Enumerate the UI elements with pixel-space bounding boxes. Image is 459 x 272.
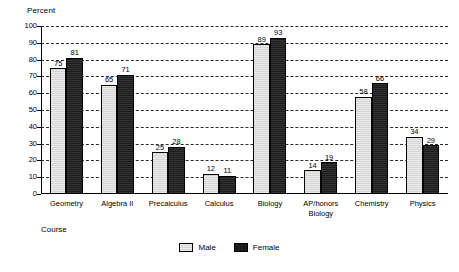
plot-area: 75816571252812118993141958663429 [41,26,448,194]
bar-female: 28 [168,147,185,194]
bar-value-label: 66 [376,75,384,83]
bar-value-label: 58 [359,88,367,96]
bar-male: 89 [253,44,270,194]
bar-value-label: 11 [223,167,231,175]
bar-value-label: 89 [258,36,266,44]
bar-female: 11 [219,176,236,194]
bar-value-label: 65 [105,76,113,84]
bar-chart: Percent 75816571252812118993141958663429… [0,0,459,272]
y-axis-tick-mark [37,26,41,27]
legend: Male Female [0,243,459,252]
bar-value-label: 75 [54,60,62,68]
bar-value-label: 93 [274,29,282,37]
bar-female: 71 [117,75,134,194]
x-axis-category-label: Chemistry [346,199,397,209]
x-axis-title: Course [41,225,67,234]
y-axis-tick-mark [37,194,41,195]
bar-female: 19 [321,162,338,194]
bar-female: 81 [66,58,83,194]
bar-value-label: 19 [325,154,333,162]
bar-value-label: 12 [207,165,215,173]
y-axis-tick-label: 60 [13,89,37,97]
bar-value-label: 25 [156,144,164,152]
x-axis-category-label: Physics [397,199,448,209]
y-axis-tick-label: 10 [13,173,37,181]
bar-male: 65 [101,85,118,194]
bar-value-label: 81 [71,49,79,57]
bar-female: 29 [423,145,440,194]
legend-item-female: Female [234,243,280,252]
bar-male: 75 [50,68,67,194]
y-axis-tick-label: 50 [13,106,37,114]
legend-swatch-male-icon [179,243,193,252]
y-axis-tick-mark [37,127,41,128]
bar-male: 58 [355,97,372,194]
x-axis-category-label: Algebra II [92,199,143,209]
gridline [41,60,448,61]
legend-label-male: Male [198,243,215,252]
bar-male: 25 [152,152,169,194]
bar-male: 34 [406,137,423,194]
y-axis-tick-label: 80 [13,56,37,64]
legend-swatch-female-icon [234,243,248,252]
x-axis-category-label: Calculus [194,199,245,209]
y-axis-tick-mark [37,60,41,61]
y-axis-tick-label: 40 [13,123,37,131]
y-axis-tick-mark [37,93,41,94]
y-axis-title: Percent [27,6,55,15]
x-axis-category-label: Biology [245,199,296,209]
bar-value-label: 14 [308,162,316,170]
bar-value-label: 71 [121,66,129,74]
bar-female: 66 [372,83,389,194]
x-axis-category-label: AP/honors Biology [295,199,346,218]
y-axis-tick-label: 30 [13,140,37,148]
y-axis-tick-mark [37,76,41,77]
y-axis-tick-label: 100 [13,22,37,30]
bar-female: 93 [270,38,287,194]
gridline [41,26,448,27]
bar-value-label: 28 [172,138,180,146]
legend-label-female: Female [253,243,280,252]
bar-male: 12 [203,174,220,194]
y-axis-tick-mark [37,160,41,161]
x-axis-category-label: Precalculus [143,199,194,209]
legend-item-male: Male [179,243,215,252]
y-axis-tick-mark [37,177,41,178]
bar-male: 14 [304,170,321,194]
bar-value-label: 29 [427,137,435,145]
y-axis-tick-label: 0 [13,190,37,198]
y-axis-tick-label: 90 [13,39,37,47]
y-axis-tick-label: 70 [13,72,37,80]
y-axis-tick-label: 20 [13,156,37,164]
y-axis-tick-mark [37,43,41,44]
gridline [41,76,448,77]
bar-value-label: 34 [410,128,418,136]
y-axis-tick-mark [37,144,41,145]
y-axis-tick-mark [37,110,41,111]
x-axis-category-label: Geometry [41,199,92,209]
gridline [41,43,448,44]
